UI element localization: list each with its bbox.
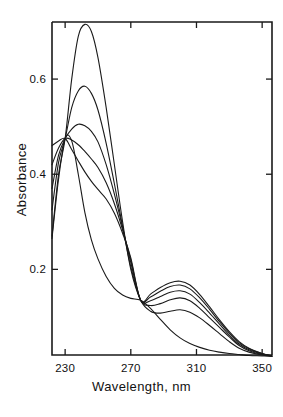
y-axis-title: Absorbance	[14, 115, 29, 245]
spectrum-curve-curve-4	[52, 138, 272, 356]
spectrum-curve-curve-6	[52, 135, 272, 356]
spectrum-curves	[52, 24, 272, 356]
axes-frame	[52, 22, 272, 355]
x-tick-label: 230	[55, 362, 75, 374]
x-tick-label: 310	[187, 362, 207, 374]
spectrum-curve-curve-5	[52, 138, 272, 356]
axis-ticks	[52, 22, 272, 355]
spectrum-plot: 230270310350 0.20.40.6	[0, 0, 283, 417]
y-tick-labels: 0.20.40.6	[29, 73, 46, 275]
x-tick-label: 350	[252, 362, 272, 374]
y-tick-label: 0.4	[29, 168, 46, 180]
spectrum-curve-curve-1	[52, 24, 272, 356]
spectrum-curve-curve-2	[52, 86, 272, 356]
y-tick-label: 0.6	[29, 73, 46, 85]
x-tick-labels: 230270310350	[55, 362, 272, 374]
x-axis-title: Wavelength, nm	[0, 379, 283, 394]
y-tick-label: 0.2	[29, 263, 46, 275]
plot-frame	[52, 22, 272, 355]
absorbance-spectrum-figure: 230270310350 0.20.40.6 Wavelength, nm Ab…	[0, 0, 283, 417]
x-tick-label: 270	[121, 362, 141, 374]
